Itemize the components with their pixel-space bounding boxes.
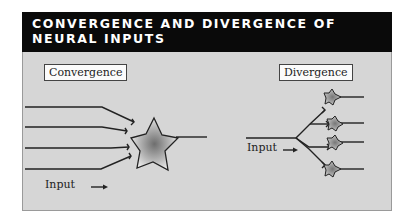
divergence-branches [246, 97, 364, 169]
divergence-label: Divergence [279, 64, 353, 81]
target-neuron-icon-1 [324, 89, 341, 105]
page-edge-mark [401, 186, 405, 206]
figure-header: CONVERGENCE AND DIVERGENCE OF NEURAL INP… [22, 12, 392, 52]
convergence-label: Convergence [44, 64, 127, 81]
diagram-panel: Convergence Divergence Input Input [22, 52, 392, 211]
target-neuron-icon-3 [327, 135, 343, 150]
figure-title: CONVERGENCE AND DIVERGENCE OF NEURAL INP… [32, 16, 382, 46]
target-neuron-icon-2 [327, 116, 343, 131]
convergence-input-label: Input [45, 178, 75, 191]
divergence-target-neurons [324, 89, 343, 177]
convergence-inputs [25, 107, 134, 169]
figure-frame: CONVERGENCE AND DIVERGENCE OF NEURAL INP… [22, 12, 392, 211]
divergence-input-label: Input [247, 141, 277, 154]
convergence-neuron-icon [131, 118, 178, 170]
target-neuron-icon-4 [324, 161, 341, 177]
